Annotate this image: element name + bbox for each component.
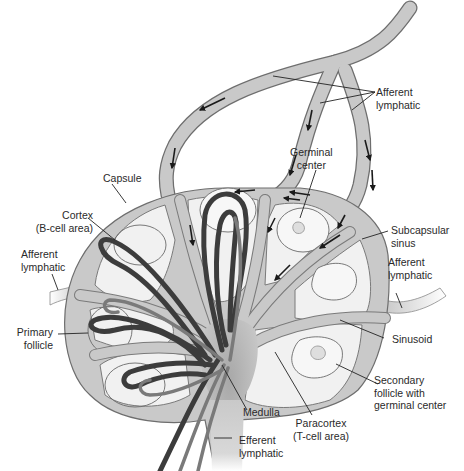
label-secondary-follicle: Secondary follicle with germinal center xyxy=(374,374,446,412)
label-paracortex: Paracortex (T-cell area) xyxy=(293,417,349,442)
label-germinal-center: Germinal center xyxy=(290,146,333,171)
right-middle-follicle xyxy=(312,263,357,300)
label-primary-follicle: Primary follicle xyxy=(0,326,53,351)
label-afferent-lymphatic-top: Afferent lymphatic xyxy=(376,86,420,111)
afferent-lymphatic-right-vessel xyxy=(385,288,446,313)
germinal-center xyxy=(293,222,305,234)
label-afferent-lymphatic-right: Afferent lymphatic xyxy=(388,256,432,281)
label-capsule: Capsule xyxy=(103,172,142,185)
label-cortex: Cortex (B-cell area) xyxy=(18,209,93,234)
label-medulla: Medulla xyxy=(243,406,280,419)
label-efferent-lymphatic: Efferent lymphatic xyxy=(239,434,283,459)
secondary-follicle-germinal-center xyxy=(311,346,326,360)
label-subcapsular-sinus: Subcapsular sinus xyxy=(391,224,449,249)
label-sinusoid: Sinusoid xyxy=(392,333,432,346)
label-afferent-lymphatic-left: Afferent lymphatic xyxy=(21,248,65,273)
